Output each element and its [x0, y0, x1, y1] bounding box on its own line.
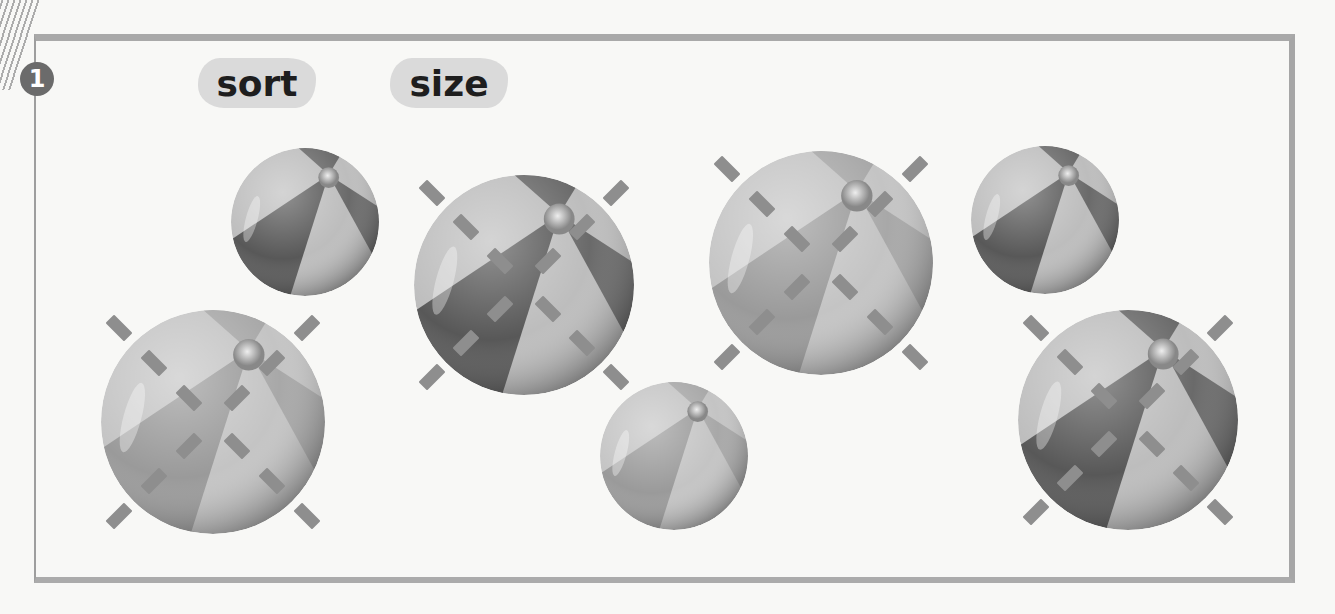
- beach-ball-large-7[interactable]: [1018, 310, 1238, 530]
- beach-ball-small-6[interactable]: [971, 146, 1119, 294]
- beach-ball-large-5[interactable]: [709, 151, 933, 375]
- worksheet-page: 1 sort size: [0, 0, 1335, 614]
- beach-ball-large-2[interactable]: [101, 310, 325, 534]
- beach-ball-icon: [231, 148, 379, 296]
- word-sort: sort: [198, 58, 316, 108]
- word-size: size: [390, 58, 508, 108]
- beach-ball-icon: [600, 382, 748, 530]
- beach-ball-small-1[interactable]: [231, 148, 379, 296]
- beach-ball-small-4[interactable]: [600, 382, 748, 530]
- beach-ball-icon: [709, 151, 933, 375]
- beach-ball-icon: [414, 175, 634, 395]
- exercise-number-badge: 1: [20, 62, 54, 96]
- beach-ball-large-3[interactable]: [414, 175, 634, 395]
- beach-ball-icon: [971, 146, 1119, 294]
- beach-ball-icon: [101, 310, 325, 534]
- beach-ball-icon: [1018, 310, 1238, 530]
